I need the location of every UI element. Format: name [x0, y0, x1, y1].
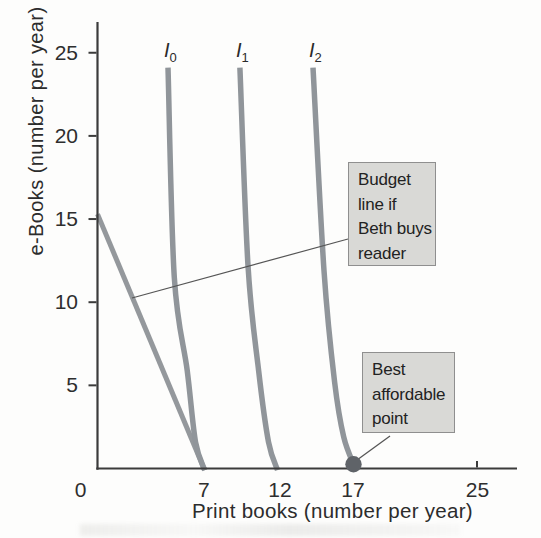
budget-line-if-beth-buys-reader: [98, 214, 205, 470]
best-point-callout: [357, 436, 390, 460]
chart-canvas: [0, 0, 541, 538]
indifference-curve-I1: [240, 68, 278, 471]
curve-label-I1: I1: [236, 38, 249, 70]
y-tick-label: 10: [28, 289, 78, 315]
curve-label-I0: I0: [164, 38, 177, 70]
budget-line-annotation-box: Budget line if Beth buys reader: [348, 162, 436, 266]
x-tick-label: 0: [61, 477, 101, 503]
indifference-curve-I0: [168, 68, 205, 471]
x-tick-label: 17: [333, 477, 373, 503]
y-tick-label: 20: [28, 123, 78, 149]
y-tick-label: 15: [28, 206, 78, 232]
indifference-curve-figure: e-Books (number per year) Print books (n…: [0, 0, 541, 538]
paper-texture: [80, 524, 460, 536]
best-affordable-point-annotation-box: Best affordable point: [362, 352, 455, 433]
y-tick-label: 25: [28, 40, 78, 66]
x-tick-label: 7: [184, 477, 224, 503]
curve-label-subscript: 2: [315, 50, 322, 65]
curve-label-subscript: 0: [170, 50, 177, 65]
curve-label-subscript: 1: [241, 50, 248, 65]
indifference-curve-I2: [313, 68, 354, 466]
budget-line-callout: [132, 239, 348, 298]
best-affordable-point-dot: [345, 456, 361, 472]
x-tick-label: 12: [260, 477, 300, 503]
x-tick-label: 25: [458, 477, 498, 503]
curve-label-I2: I2: [309, 38, 322, 70]
y-tick-label: 5: [28, 372, 78, 398]
